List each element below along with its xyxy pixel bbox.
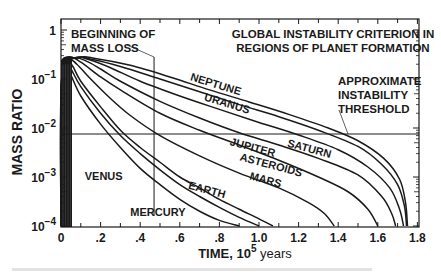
label-mercury: MERCURY <box>130 206 186 218</box>
svg-text:.6: .6 <box>175 231 185 245</box>
svg-text:1.2: 1.2 <box>290 231 307 245</box>
beginning-mass-loss-label: BEGINNING OF <box>71 28 155 40</box>
svg-text:10−1: 10−1 <box>31 69 56 87</box>
svg-text:10−4: 10−4 <box>31 216 56 234</box>
threshold-label: INSTABILITY <box>338 89 408 101</box>
svg-text:10−2: 10−2 <box>31 118 56 136</box>
mass-ratio-chart: 0.2.4.6.81.01.21.41.61.8 110−110−210−310… <box>0 0 441 277</box>
svg-text:1.4: 1.4 <box>330 231 347 245</box>
y-axis-label: MASS RATIO <box>9 88 25 175</box>
label-earth: EARTH <box>187 179 227 200</box>
figure-caption <box>12 268 372 271</box>
svg-text:.2: .2 <box>96 231 106 245</box>
threshold-label: APPROXIMATE <box>338 75 422 87</box>
x-axis-label: TIME, 105 years <box>198 243 292 261</box>
svg-text:1: 1 <box>49 24 56 38</box>
svg-text:0: 0 <box>58 231 65 245</box>
svg-text:.8: .8 <box>214 231 224 245</box>
threshold-label: THRESHOLD <box>338 103 410 115</box>
beginning-mass-loss-label: MASS LOSS <box>71 42 139 54</box>
svg-text:1.8: 1.8 <box>409 231 426 245</box>
label-venus: VENUS <box>85 170 123 182</box>
dense-early-curves-band <box>61 60 72 227</box>
svg-text:.4: .4 <box>135 231 145 245</box>
chart-title-line-1: GLOBAL INSTABILITY CRITERION IN <box>232 28 435 40</box>
chart-title-line-2: REGIONS OF PLANET FORMATION <box>236 42 429 54</box>
svg-text:1.6: 1.6 <box>369 231 386 245</box>
annotations: BEGINNING OFMASS LOSSAPPROXIMATEINSTABIL… <box>61 28 422 216</box>
label-saturn: SATURN <box>286 137 333 160</box>
svg-text:10−3: 10−3 <box>31 167 56 185</box>
